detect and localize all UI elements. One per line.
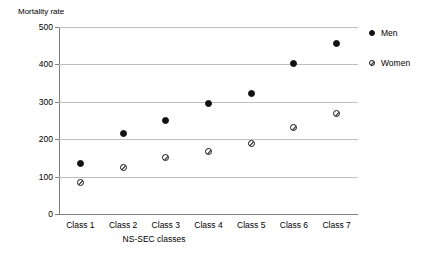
legend-label-women: Women bbox=[381, 58, 410, 68]
y-tick-label-400: 400 bbox=[19, 60, 53, 69]
y-axis-title: Mortality rate bbox=[18, 7, 64, 17]
gridline-500 bbox=[59, 27, 358, 28]
y-tick-label-200: 200 bbox=[19, 135, 53, 144]
y-tick-mark-0 bbox=[55, 214, 59, 215]
y-tick-mark-200 bbox=[55, 139, 59, 140]
y-tick-mark-400 bbox=[55, 64, 59, 65]
y-tick-mark-100 bbox=[55, 177, 59, 178]
plot-area bbox=[59, 27, 358, 214]
data-point-men-class-3 bbox=[162, 117, 169, 124]
data-point-men-class-2 bbox=[120, 130, 127, 137]
x-tick-label-7: Class 7 bbox=[313, 220, 361, 230]
gridline-100 bbox=[59, 177, 358, 178]
data-point-women-class-5 bbox=[248, 140, 255, 147]
y-tick-label-0: 0 bbox=[19, 210, 53, 219]
y-tick-mark-500 bbox=[55, 27, 59, 28]
men-marker-icon bbox=[369, 30, 375, 36]
data-point-women-class-4 bbox=[205, 148, 212, 155]
data-point-men-class-7 bbox=[333, 40, 340, 47]
x-tick-label-1: Class 1 bbox=[56, 220, 104, 230]
x-tick-label-2: Class 2 bbox=[99, 220, 147, 230]
data-point-men-class-4 bbox=[205, 100, 212, 107]
y-tick-label-100: 100 bbox=[19, 173, 53, 182]
data-point-women-class-7 bbox=[333, 110, 340, 117]
x-tick-label-3: Class 3 bbox=[142, 220, 190, 230]
x-tick-label-5: Class 5 bbox=[227, 220, 275, 230]
gridline-0 bbox=[59, 214, 358, 215]
y-tick-mark-300 bbox=[55, 102, 59, 103]
gridline-400 bbox=[59, 64, 358, 65]
data-point-men-class-1 bbox=[77, 160, 84, 167]
data-point-women-class-6 bbox=[290, 124, 297, 131]
x-tick-label-6: Class 6 bbox=[270, 220, 318, 230]
legend-label-men: Men bbox=[381, 28, 398, 38]
y-axis-line bbox=[59, 27, 60, 214]
x-tick-label-4: Class 4 bbox=[185, 220, 233, 230]
x-axis-title: NS-SEC classes bbox=[0, 234, 426, 244]
data-point-men-class-6 bbox=[290, 60, 297, 67]
gridline-200 bbox=[59, 139, 358, 140]
x-axis-title-text: NS-SEC classes bbox=[123, 234, 186, 244]
mortality-rate-scatter-chart: Mortality rate 0100200300400500 Class 1C… bbox=[0, 0, 426, 255]
data-point-men-class-5 bbox=[248, 90, 255, 97]
women-marker-icon bbox=[369, 60, 375, 66]
data-point-women-class-2 bbox=[120, 164, 127, 171]
y-tick-label-300: 300 bbox=[19, 98, 53, 107]
data-point-women-class-3 bbox=[162, 154, 169, 161]
data-point-women-class-1 bbox=[77, 179, 84, 186]
y-tick-label-500: 500 bbox=[19, 23, 53, 32]
